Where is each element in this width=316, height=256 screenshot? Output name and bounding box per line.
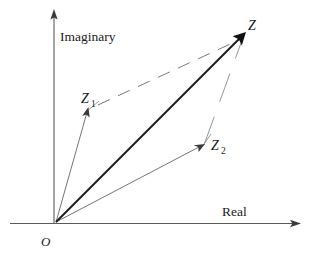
axes-group — [10, 9, 301, 227]
vector-z2-arrowhead — [194, 144, 205, 152]
complex-plane-diagram: Imaginary Real O Z Z 1 Z 2 — [0, 0, 316, 256]
origin-label: O — [41, 234, 51, 249]
construction-lines-group — [98, 40, 241, 145]
vector-z2-shaft — [56, 147, 199, 222]
imaginary-axis-label: Imaginary — [60, 29, 116, 44]
vector-z2-label-group: Z 2 — [211, 138, 226, 156]
real-axis-label: Real — [222, 204, 247, 219]
vector-z-resultant — [56, 32, 246, 222]
complex-plane-canvas: Imaginary Real O Z Z 1 Z 2 — [0, 0, 316, 256]
dashed-line-z2-to-z — [204, 43, 241, 145]
vector-z1-label: Z — [81, 91, 89, 106]
vector-z-shaft — [56, 38, 240, 222]
vector-z2-subscript: 2 — [221, 146, 226, 156]
vector-z2-label: Z — [211, 138, 219, 153]
dashed-line-z1-to-z — [98, 40, 239, 105]
vector-z1-label-group: Z 1 — [81, 91, 96, 109]
labels-group: Imaginary Real O Z Z 1 Z 2 — [41, 18, 256, 249]
vector-z1-subscript: 1 — [91, 99, 96, 109]
vector-z1 — [56, 101, 99, 222]
vector-z2 — [56, 134, 211, 222]
vector-z-label: Z — [248, 18, 256, 33]
